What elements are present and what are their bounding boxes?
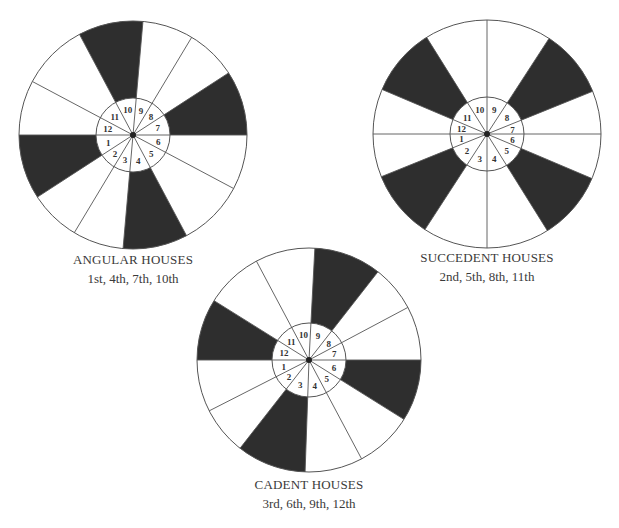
house-number-7: 7	[332, 349, 337, 359]
house-number-9: 9	[492, 105, 497, 115]
angular-wheel: 123456789101112	[19, 21, 247, 249]
house-number-4: 4	[136, 156, 141, 166]
center-dot	[130, 132, 136, 138]
cadent-wheel: 123456789101112	[197, 248, 421, 472]
house-number-2: 2	[287, 372, 292, 382]
house-number-1: 1	[106, 138, 111, 148]
succedent-houses-subtitle: 2nd, 5th, 8th, 11th	[397, 269, 577, 285]
house-number-1: 1	[459, 134, 464, 144]
house-number-9: 9	[139, 106, 144, 116]
house-number-9: 9	[316, 331, 321, 341]
house-number-10: 10	[299, 330, 309, 340]
house-number-2: 2	[465, 146, 470, 156]
angular-houses-label: ANGULAR HOUSES 1st, 4th, 7th, 10th	[53, 252, 213, 287]
center-dot	[306, 357, 312, 363]
house-number-6: 6	[156, 137, 161, 147]
house-number-3: 3	[123, 155, 128, 165]
house-number-10: 10	[475, 105, 485, 115]
house-number-12: 12	[457, 124, 467, 134]
angular-houses-title: ANGULAR HOUSES	[53, 252, 213, 268]
house-number-11: 11	[287, 337, 296, 347]
house-number-7: 7	[156, 123, 161, 133]
house-number-4: 4	[313, 381, 318, 391]
house-number-8: 8	[149, 112, 154, 122]
cadent-houses-subtitle: 3rd, 6th, 9th, 12th	[229, 496, 389, 512]
house-number-5: 5	[149, 149, 154, 159]
cadent-houses-label: CADENT HOUSES 3rd, 6th, 9th, 12th	[229, 477, 389, 512]
house-number-5: 5	[324, 374, 329, 384]
house-number-6: 6	[510, 135, 515, 145]
house-number-12: 12	[103, 124, 113, 134]
house-number-10: 10	[123, 105, 133, 115]
house-number-11: 11	[463, 113, 472, 123]
house-number-3: 3	[298, 380, 303, 390]
house-number-4: 4	[492, 154, 497, 164]
house-number-7: 7	[510, 125, 515, 135]
house-number-11: 11	[110, 112, 119, 122]
angular-houses-subtitle: 1st, 4th, 7th, 10th	[53, 271, 213, 287]
house-number-1: 1	[282, 362, 287, 372]
house-number-2: 2	[113, 149, 118, 159]
succedent-houses-label: SUCCEDENT HOUSES 2nd, 5th, 8th, 11th	[397, 250, 577, 285]
house-number-12: 12	[280, 348, 290, 358]
house-number-6: 6	[332, 363, 337, 373]
house-number-8: 8	[505, 113, 510, 123]
succedent-houses-title: SUCCEDENT HOUSES	[397, 250, 577, 266]
cadent-houses-title: CADENT HOUSES	[229, 477, 389, 493]
house-number-8: 8	[327, 339, 332, 349]
center-dot	[484, 131, 490, 137]
house-number-5: 5	[504, 146, 509, 156]
house-number-3: 3	[477, 154, 482, 164]
succedent-wheel: 123456789101112	[373, 20, 601, 248]
